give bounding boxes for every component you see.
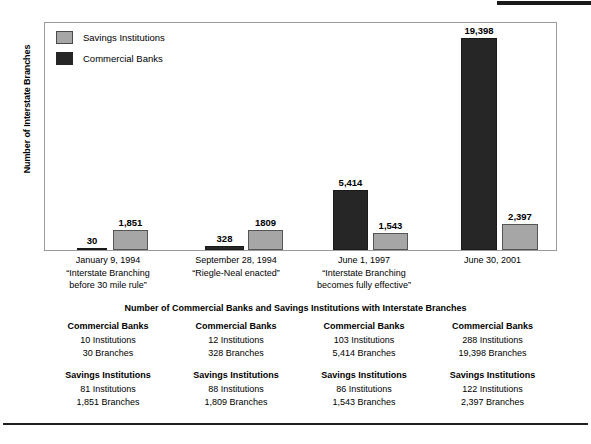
bar-commercial-3 [333, 190, 368, 250]
summary-column-2-commercial: Commercial Banks 12 Institutions 328 Bra… [172, 320, 300, 360]
summary-col3-commercial-heading: Commercial Banks [300, 320, 428, 333]
bar-value-savings-3: 1,543 [379, 220, 403, 231]
summary-col3-savings-heading: Savings Institutions [300, 369, 428, 382]
bar-group-2001-06-30: 19,398 2,397 [429, 23, 558, 250]
x-label-3-line3: becomes fully effective” [300, 279, 428, 292]
x-label-1-line1: January 9, 1994 [44, 254, 172, 267]
chart-plot-area: Savings Institutions Commercial Banks 30… [44, 22, 557, 251]
summary-col2-commercial-institutions: 12 Institutions [172, 334, 300, 347]
summary-col2-commercial-heading: Commercial Banks [172, 320, 300, 333]
bar-commercial-2 [205, 246, 244, 250]
summary-column-3-commercial: Commercial Banks 103 Institutions 5,414 … [300, 320, 428, 360]
bar-slot-savings-1: 1,851 [113, 217, 148, 250]
summary-col3-commercial-branches: 5,414 Branches [300, 347, 428, 360]
bar-value-commercial-2: 328 [217, 233, 233, 244]
bar-value-commercial-4: 19,398 [464, 25, 493, 36]
summary-col2-savings-institutions: 88 Institutions [172, 383, 300, 396]
bar-slot-commercial-4: 19,398 [461, 25, 497, 250]
summary-column-3-savings: Savings Institutions 86 Institutions 1,5… [300, 369, 428, 409]
x-label-1-line2: “Interstate Branching [44, 267, 172, 280]
summary-col3-savings-institutions: 86 Institutions [300, 383, 428, 396]
summary-column-1-commercial: Commercial Banks 10 Institutions 30 Bran… [44, 320, 172, 360]
bar-value-commercial-3: 5,414 [339, 177, 363, 188]
x-axis-label-group-3: June 1, 1997 “Interstate Branching becom… [300, 254, 428, 292]
bar-slot-savings-4: 2,397 [502, 211, 538, 250]
x-label-1-line3: before 30 mile rule” [44, 279, 172, 292]
bar-savings-1 [113, 230, 148, 250]
bar-group-1994-09-28: 328 1809 [173, 23, 301, 250]
summary-col1-savings-branches: 1,851 Branches [44, 396, 172, 409]
summary-col1-commercial-institutions: 10 Institutions [44, 334, 172, 347]
bar-slot-commercial-1: 30 [77, 235, 107, 250]
x-label-4-line1: June 30, 2001 [428, 254, 557, 267]
bar-value-savings-2: 1809 [255, 217, 276, 228]
summary-col2-commercial-branches: 328 Branches [172, 347, 300, 360]
summary-column-4-commercial: Commercial Banks 288 Institutions 19,398… [428, 320, 557, 360]
bar-group-1997-06-01: 5,414 1,543 [301, 23, 429, 250]
summary-col3-savings-branches: 1,543 Branches [300, 396, 428, 409]
bars-container: 30 1,851 328 1809 5,414 [45, 23, 556, 250]
summary-column-2-savings: Savings Institutions 88 Institutions 1,8… [172, 369, 300, 409]
x-axis-label-group-4: June 30, 2001 [428, 254, 557, 267]
bar-slot-commercial-3: 5,414 [333, 177, 368, 250]
x-axis-label-group-1: January 9, 1994 “Interstate Branching be… [44, 254, 172, 292]
summary-col4-savings-branches: 2,397 Branches [428, 396, 557, 409]
summary-col2-savings-heading: Savings Institutions [172, 369, 300, 382]
summary-col1-savings-heading: Savings Institutions [44, 369, 172, 382]
bar-slot-savings-2: 1809 [248, 217, 283, 250]
x-axis-labels: January 9, 1994 “Interstate Branching be… [44, 254, 557, 298]
bar-group-1994-01-09: 30 1,851 [45, 23, 173, 250]
summary-table-title: Number of Commercial Banks and Savings I… [0, 303, 591, 313]
summary-col1-savings-institutions: 81 Institutions [44, 383, 172, 396]
bottom-decorative-rule [3, 423, 588, 425]
x-label-3-line1: June 1, 1997 [300, 254, 428, 267]
summary-col4-commercial-institutions: 288 Institutions [428, 334, 557, 347]
bar-commercial-4 [461, 38, 497, 250]
x-label-2-line2: “Riegle-Neal enacted” [172, 267, 300, 280]
y-axis-title: Number of Interstate Branches [22, 19, 32, 199]
bar-savings-3 [373, 233, 408, 250]
bar-commercial-1 [77, 248, 107, 250]
x-axis-label-group-2: September 28, 1994 “Riegle-Neal enacted” [172, 254, 300, 279]
summary-col4-savings-heading: Savings Institutions [428, 369, 557, 382]
bar-slot-commercial-2: 328 [205, 233, 244, 250]
bar-value-savings-4: 2,397 [508, 211, 532, 222]
top-decorative-rule [497, 1, 591, 5]
bar-value-commercial-1: 30 [87, 235, 98, 246]
summary-col1-commercial-heading: Commercial Banks [44, 320, 172, 333]
summary-column-4-savings: Savings Institutions 122 Institutions 2,… [428, 369, 557, 409]
x-label-3-line2: “Interstate Branching [300, 267, 428, 280]
summary-col3-commercial-institutions: 103 Institutions [300, 334, 428, 347]
summary-col4-savings-institutions: 122 Institutions [428, 383, 557, 396]
summary-col4-commercial-branches: 19,398 Branches [428, 347, 557, 360]
bar-value-savings-1: 1,851 [119, 217, 143, 228]
summary-col2-savings-branches: 1,809 Branches [172, 396, 300, 409]
bar-slot-savings-3: 1,543 [373, 220, 408, 250]
bar-savings-2 [248, 230, 283, 250]
bar-savings-4 [502, 224, 538, 250]
summary-col1-commercial-branches: 30 Branches [44, 347, 172, 360]
summary-col4-commercial-heading: Commercial Banks [428, 320, 557, 333]
summary-column-1-savings: Savings Institutions 81 Institutions 1,8… [44, 369, 172, 409]
x-label-2-line1: September 28, 1994 [172, 254, 300, 267]
